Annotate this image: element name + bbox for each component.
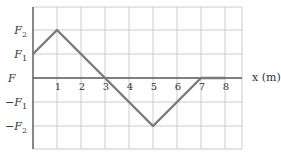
x-tick-label: 7 [199, 81, 205, 92]
y-tick-label: F2 [13, 24, 27, 39]
x-tick-label: 1 [55, 81, 61, 92]
x-axis-label: x (m) [252, 71, 281, 84]
y-tick-label: F1 [13, 48, 27, 63]
y-tick-label: −F1 [5, 96, 27, 111]
x-tick-label: 6 [175, 81, 181, 92]
x-tick-label: 8 [223, 81, 229, 92]
y-tick-label: −F2 [5, 120, 27, 135]
x-tick-label: 4 [127, 81, 133, 92]
x-tick-label: 5 [151, 81, 157, 92]
force-position-chart: 12345678 F2F1−F1−F2 F x (m) [0, 0, 281, 155]
x-tick-label: 2 [79, 81, 85, 92]
y-axis-label: F [7, 72, 16, 85]
x-tick-labels: 12345678 [55, 81, 229, 92]
x-tick-label: 3 [103, 81, 109, 92]
